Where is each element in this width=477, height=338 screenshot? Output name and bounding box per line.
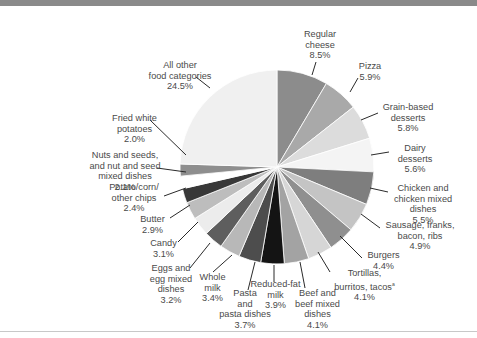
label-text: pasta dishes [215,309,275,320]
label-text: Grain-based [378,102,438,113]
label-pct: 5.9% [350,72,390,83]
label-eggs: Eggs and egg mixed dishes 3.2% [146,263,196,305]
label-regular-cheese: Regular cheese 8.5% [290,29,350,61]
leader-line [312,62,316,75]
label-text: Fried white [102,113,167,124]
label-pct: 5.6% [390,164,440,175]
leader-line [370,188,388,192]
label-pct: 2.9% [135,225,170,236]
label-pct: 2.1% [85,182,165,193]
label-text: All other [140,60,220,71]
label-text: other chips [104,193,164,204]
leader-line [178,222,198,242]
label-pct: 8.5% [290,50,350,61]
label-text: bacon, ribs [380,231,460,242]
leader-line [170,205,190,218]
leader-line [213,255,232,272]
label-text: Nuts and seeds, [85,150,165,161]
label-pct: 3.1% [146,249,181,260]
label-text: cheese [290,40,350,51]
label-text: chicken mixed [388,194,458,205]
label-butter: Butter 2.9% [135,214,170,235]
label-pct: 3.2% [146,295,196,306]
label-pct: 24.5% [140,81,220,92]
label-text: desserts [378,113,438,124]
label-pct: 2.0% [102,134,167,145]
label-fried-potatoes: Fried white potatoes 2.0% [102,113,167,145]
label-text: potatoes [102,124,167,135]
label-pct: 4.1% [290,320,345,331]
leader-line [340,236,362,258]
label-text: Whole [195,272,230,283]
label-text: and nut and seed [85,161,165,172]
label-text: Regular [290,29,350,40]
label-text: Candy [146,238,181,249]
label-chicken: Chicken and chicken mixed dishes 5.5% [388,183,458,225]
label-pizza: Pizza 5.9% [350,61,390,82]
label-text: Chicken and [388,183,458,194]
label-text: dishes [290,309,345,320]
label-nuts: Nuts and seeds, and nut and seed mixed d… [85,150,165,192]
label-text: milk [195,283,230,294]
label-sausage: Sausage, franks, bacon, ribs 4.9% [380,220,460,252]
label-text: Dairy [390,143,440,154]
label-pct: 3.7% [215,320,275,331]
bottom-divider [0,331,477,332]
label-text: egg mixed [146,274,196,285]
leader-line [371,152,389,155]
label-dairy-desserts: Dairy desserts 5.6% [390,143,440,175]
label-candy: Candy 3.1% [146,238,181,259]
label-all-other: All other food categories 24.5% [140,60,220,92]
label-text: Sausage, franks, [380,220,460,231]
label-text: Tortillas, [327,268,402,279]
label-text: mixed dishes [85,171,165,182]
label-pct: 5.8% [378,123,438,134]
leader-line [361,113,378,120]
label-pct: 2.4% [104,203,164,214]
label-text: dishes [146,284,196,295]
label-whole-milk: Whole milk 3.4% [195,272,230,304]
label-text: Burgers [361,250,406,261]
label-text: dishes [388,204,458,215]
label-text: desserts [390,154,440,165]
footnote-marker: a [392,281,395,287]
label-text: food categories [140,71,220,82]
label-text: Pizza [350,61,390,72]
label-text: Butter [135,214,170,225]
label-grain-desserts: Grain-based desserts 5.8% [378,102,438,134]
label-text: Eggs and [146,263,196,274]
leader-line [361,214,380,228]
leader-line [164,188,186,196]
label-pct: 3.4% [195,293,230,304]
